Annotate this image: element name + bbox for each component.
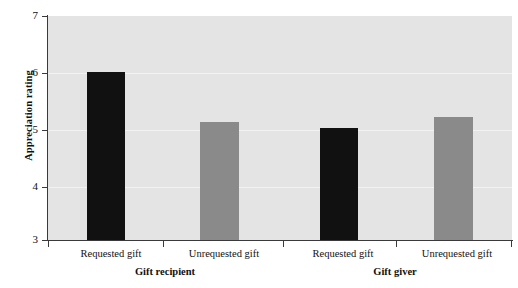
x-tick-mark-4 [511,241,512,247]
y-tick-label-7: 7 [8,10,38,21]
x-tick-mark-0 [48,241,49,247]
y-axis-line [47,15,48,241]
bar-giver-requested [320,128,358,240]
x-tick-label-giver-requested: Requested gift [278,248,408,260]
y-axis-title: Appreciation rating [23,36,34,196]
group-label-gift-giver: Gift giver [335,266,455,278]
bar-chart-figure: Appreciation rating 7 6 5 4 3 Requested … [0,0,518,288]
y-tick-label-3: 3 [8,234,38,245]
bar-recipient-requested [87,72,125,240]
group-label-gift-recipient: Gift recipient [105,266,225,278]
x-tick-mark-2 [283,241,284,247]
x-tick-label-recipient-unrequested: Unrequested gift [159,248,289,260]
y-tick-label-5: 5 [8,124,38,135]
x-tick-mark-1 [163,241,164,247]
bar-giver-unrequested [434,117,473,240]
x-tick-label-recipient-requested: Requested gift [46,248,176,260]
y-tick-label-4: 4 [8,181,38,192]
bar-recipient-unrequested [200,122,239,240]
x-tick-mark-3 [396,241,397,247]
y-tick-label-6: 6 [8,67,38,78]
x-tick-label-giver-unrequested: Unrequested gift [392,248,518,260]
x-axis-line [47,240,513,241]
plot-area [48,16,512,240]
